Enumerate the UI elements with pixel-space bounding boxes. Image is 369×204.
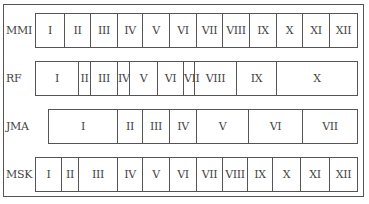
intensity-cell: II xyxy=(64,13,90,48)
intensity-cell: II xyxy=(78,61,90,96)
intensity-cell: IV xyxy=(169,109,196,144)
intensity-cell: XII xyxy=(329,13,358,48)
intensity-cell: IV xyxy=(117,13,142,48)
intensity-cell: I xyxy=(35,61,78,96)
intensity-cell: VIII xyxy=(194,61,236,96)
intensity-cell: XI xyxy=(302,13,329,48)
intensity-cell: X xyxy=(276,13,302,48)
intensity-cell: X xyxy=(272,157,300,192)
intensity-cell: IV xyxy=(117,157,142,192)
intensity-cell: IV xyxy=(117,61,129,96)
intensity-cell: VIII xyxy=(222,13,249,48)
scale-label-rf: RF xyxy=(6,61,21,96)
intensity-cell: III xyxy=(90,13,117,48)
intensity-cell: VII xyxy=(302,109,358,144)
intensity-cell: IX xyxy=(236,61,276,96)
intensity-cell: IX xyxy=(247,157,272,192)
intensity-cell: V xyxy=(129,61,157,96)
intensity-cell: VI xyxy=(157,61,183,96)
intensity-cell: I xyxy=(35,157,61,192)
intensity-cell: VIII xyxy=(222,157,247,192)
intensity-cell: III xyxy=(90,61,117,96)
intensity-cell: VII xyxy=(183,61,194,96)
scale-label-jma: JMA xyxy=(6,109,29,144)
intensity-cell: VII xyxy=(196,157,222,192)
scale-label-msk: MSK xyxy=(6,157,32,192)
intensity-cell: V xyxy=(142,13,169,48)
intensity-cell: X xyxy=(276,61,358,96)
intensity-cell: VI xyxy=(169,157,196,192)
intensity-cell: V xyxy=(142,157,169,192)
intensity-cell: II xyxy=(61,157,78,192)
intensity-cell: XII xyxy=(329,157,358,192)
intensity-cell: VII xyxy=(196,13,222,48)
intensity-cell: II xyxy=(117,109,142,144)
intensity-cell: V xyxy=(196,109,248,144)
scale-label-mmi: MMI xyxy=(6,13,32,48)
intensity-cell: IX xyxy=(249,13,276,48)
intensity-cell: III xyxy=(142,109,169,144)
intensity-cell: XI xyxy=(300,157,329,192)
intensity-cell: VI xyxy=(248,109,302,144)
intensity-cell: I xyxy=(35,13,64,48)
intensity-cell: VI xyxy=(169,13,196,48)
intensity-cell: I xyxy=(48,109,117,144)
intensity-cell: III xyxy=(78,157,117,192)
